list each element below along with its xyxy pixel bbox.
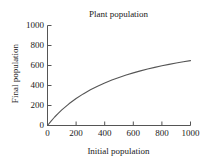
x-axis-ticks [48, 122, 191, 126]
x-tick-label-600: 600 [118, 128, 148, 138]
data-series-line [48, 61, 191, 126]
x-tick-label-400: 400 [90, 128, 120, 138]
x-tick-label-1000: 1000 [176, 128, 206, 138]
y-tick-label-1000: 1000 [18, 20, 44, 30]
x-tick-label-800: 800 [147, 128, 177, 138]
y-tick-label-600: 600 [18, 60, 44, 70]
y-tick-label-200: 200 [18, 100, 44, 110]
y-tick-label-800: 800 [18, 40, 44, 50]
x-axis-label: Initial population [47, 146, 190, 157]
y-tick-label-400: 400 [18, 80, 44, 90]
y-axis-ticks [48, 26, 52, 126]
x-tick-label-200: 200 [61, 128, 91, 138]
chart-figure: Plant population 0 200 400 600 800 [0, 0, 205, 164]
x-tick-label-0: 0 [33, 128, 63, 138]
y-axis-label: Final population [10, 32, 21, 116]
